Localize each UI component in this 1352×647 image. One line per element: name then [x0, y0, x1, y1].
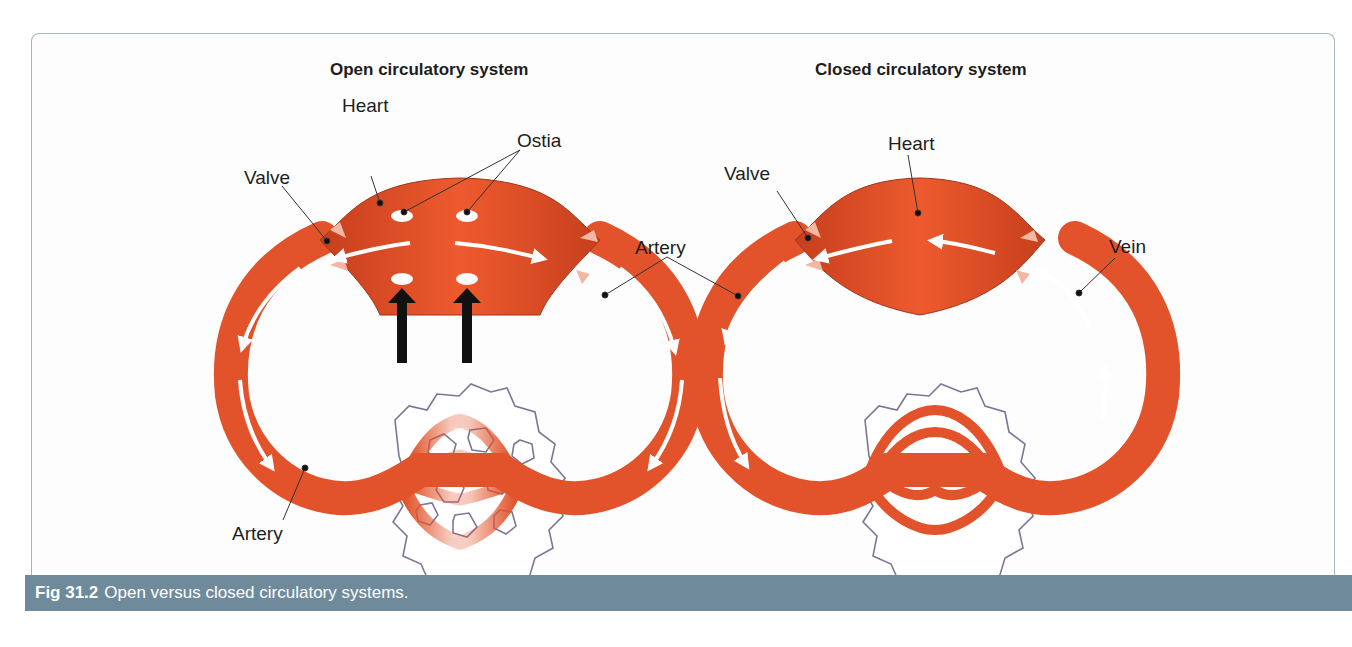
- closed-system-title: Closed circulatory system: [815, 60, 1027, 79]
- ostia-label: Ostia: [517, 130, 562, 151]
- figure-caption: Fig 31.2Open versus closed circulatory s…: [25, 575, 1352, 611]
- open-system-title: Open circulatory system: [330, 60, 528, 79]
- circulatory-diagram: Open circulatory system Heart Ostia Valv…: [0, 0, 1352, 647]
- open-heart: [320, 178, 600, 315]
- artery-label-shared: Artery: [635, 237, 686, 258]
- closed-valve-label: Valve: [724, 163, 770, 184]
- open-system-diagram: Open circulatory system Heart Ostia Valv…: [231, 60, 689, 594]
- open-valve-label: Valve: [244, 167, 290, 188]
- closed-heart-label: Heart: [888, 133, 935, 154]
- open-heart-label: Heart: [342, 95, 389, 116]
- open-artery-label: Artery: [232, 523, 283, 544]
- figure-number: Fig 31.2: [35, 583, 98, 602]
- closed-heart: [795, 178, 1045, 315]
- closed-system-diagram: Closed circulatory system Heart Valve Ve…: [667, 60, 1163, 594]
- vein-label: Vein: [1109, 236, 1146, 257]
- caption-text: Open versus closed circulatory systems.: [104, 583, 408, 602]
